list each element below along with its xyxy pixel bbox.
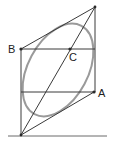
main-diagonal — [21, 7, 95, 135]
label-a: A — [98, 87, 106, 99]
label-c: C — [69, 51, 77, 63]
inscribed-ellipse — [8, 12, 108, 128]
point-a — [92, 90, 95, 93]
point-bottom — [20, 134, 23, 137]
geometry-diagram: B C A — [0, 0, 114, 150]
point-top — [94, 6, 97, 9]
label-b: B — [8, 43, 15, 55]
point-b — [19, 47, 22, 50]
